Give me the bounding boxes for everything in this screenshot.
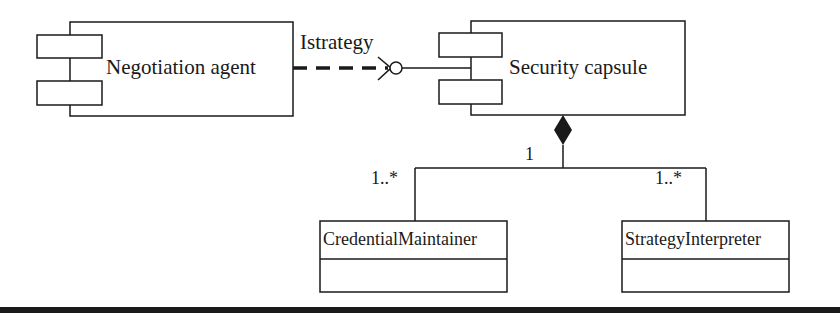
interface-lollipop-icon xyxy=(390,62,402,74)
strategy-interpreter-label: StrategyInterpreter xyxy=(625,229,761,250)
owner-multiplicity: 1 xyxy=(525,144,534,165)
composition-diamond-icon xyxy=(554,115,572,145)
strategy-interpreter-multiplicity: 1..* xyxy=(655,168,682,189)
bottom-bar xyxy=(0,307,840,313)
security-capsule-label: Security capsule xyxy=(509,55,647,80)
diagram-canvas xyxy=(0,0,840,313)
dependency-arrowhead xyxy=(378,57,391,80)
interface-label: Istrategy xyxy=(300,30,373,55)
negotiation-agent-label: Negotiation agent xyxy=(106,55,256,80)
credential-maintainer-multiplicity: 1..* xyxy=(371,168,398,189)
credential-maintainer-label: CredentialMaintainer xyxy=(323,229,477,250)
